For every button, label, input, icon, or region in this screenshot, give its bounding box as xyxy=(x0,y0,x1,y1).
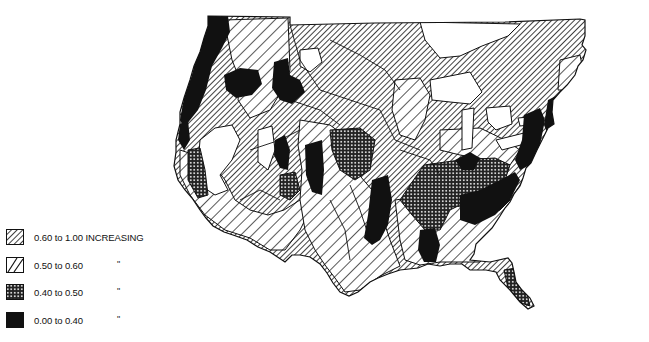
legend-label: 0.50 to 0.60 xyxy=(34,260,83,271)
crosshatch-swatch-icon xyxy=(6,284,24,300)
ditto-mark: " xyxy=(117,259,120,269)
solid-black-swatch-icon xyxy=(6,312,24,328)
ditto-mark: " xyxy=(117,314,120,324)
dense-hatch-swatch-icon xyxy=(6,229,24,245)
legend-item-0.60-1.00: 0.60 to 1.00 INCREASING xyxy=(6,229,226,249)
legend-label: 0.40 to 0.50 xyxy=(34,287,83,298)
ditto-mark: " xyxy=(117,286,120,296)
legend-item-0.40-0.50: 0.40 to 0.50 " xyxy=(6,284,226,304)
legend-item-0.50-0.60: 0.50 to 0.60 " xyxy=(6,257,226,277)
sparse-hatch-swatch-icon xyxy=(6,257,24,273)
legend-item-0.00-0.40: 0.00 to 0.40 " xyxy=(6,312,226,332)
legend-label: 0.00 to 0.40 xyxy=(34,315,83,326)
legend-label: 0.60 to 1.00 INCREASING xyxy=(34,232,144,243)
